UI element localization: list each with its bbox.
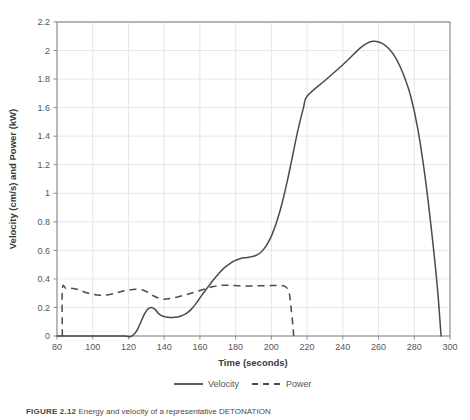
legend-item-power: Power <box>252 379 312 389</box>
y-tick-label: 0.2 <box>37 303 50 313</box>
x-tick-label: 220 <box>300 342 315 352</box>
y-tick-label: 1.4 <box>37 131 50 141</box>
y-tick-label: 2 <box>45 46 50 56</box>
y-tick-label: 1 <box>45 188 50 198</box>
y-tick-label: 0.8 <box>37 217 50 227</box>
x-tick-label: 160 <box>192 342 207 352</box>
figure-container: 00.20.40.60.811.21.41.61.822.2 801001201… <box>0 0 470 420</box>
y-axis-ticks: 00.20.40.60.811.21.41.61.822.2 <box>37 17 57 341</box>
y-tick-label: 0.6 <box>37 246 50 256</box>
y-tick-label: 1.2 <box>37 160 50 170</box>
y-tick-label: 0 <box>45 331 50 341</box>
y-tick-label: 1.6 <box>37 103 50 113</box>
x-tick-label: 240 <box>335 342 350 352</box>
figure-number: FIGURE 2.12 <box>26 407 76 416</box>
line-chart: 00.20.40.60.811.21.41.61.822.2 801001201… <box>0 0 470 420</box>
x-tick-label: 80 <box>52 342 62 352</box>
chart-legend: Velocity Power <box>174 379 312 389</box>
x-axis-ticks: 80100120140160180200220240260280300 <box>52 336 458 352</box>
y-tick-label: 0.4 <box>37 274 50 284</box>
x-tick-label: 100 <box>85 342 100 352</box>
figure-caption-text: Energy and velocity of a representative … <box>78 407 270 416</box>
plot-background <box>57 22 450 336</box>
x-tick-label: 200 <box>264 342 279 352</box>
y-axis-title: Velocity (cm/s) and Power (kW) <box>7 109 18 249</box>
legend-label-power: Power <box>286 379 312 389</box>
figure-caption: FIGURE 2.12 Energy and velocity of a rep… <box>26 406 456 417</box>
legend-label-velocity: Velocity <box>208 379 240 389</box>
x-tick-label: 120 <box>121 342 136 352</box>
y-tick-label: 1.8 <box>37 74 50 84</box>
x-tick-label: 280 <box>407 342 422 352</box>
y-tick-label: 2.2 <box>37 17 50 27</box>
x-axis-title: Time (seconds) <box>218 357 288 368</box>
legend-item-velocity: Velocity <box>174 379 240 389</box>
x-tick-label: 260 <box>371 342 386 352</box>
x-tick-label: 180 <box>228 342 243 352</box>
x-tick-label: 300 <box>442 342 457 352</box>
x-tick-label: 140 <box>157 342 172 352</box>
